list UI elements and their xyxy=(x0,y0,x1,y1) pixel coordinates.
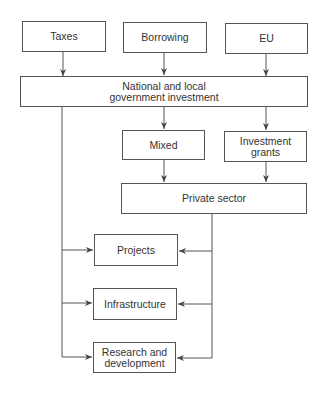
research-development-box: Research and development xyxy=(93,342,176,373)
projects-label: Projects xyxy=(117,245,155,256)
private-sector-label: Private sector xyxy=(182,193,246,204)
mixed-box: Mixed xyxy=(122,130,205,160)
rnd-label-line2: development xyxy=(104,358,164,369)
investment-grants-line1: Investment xyxy=(240,136,291,147)
private-sector-box: Private sector xyxy=(121,183,307,214)
eu-box: EU xyxy=(225,23,308,54)
mixed-label: Mixed xyxy=(149,140,177,151)
government-label-line1: National and local xyxy=(122,81,205,92)
investment-grants-box: Investment grants xyxy=(224,131,307,162)
taxes-box: Taxes xyxy=(22,21,106,52)
government-label-line2: government investment xyxy=(109,92,218,103)
projects-box: Projects xyxy=(94,234,178,266)
infrastructure-box: Infrastructure xyxy=(93,288,177,320)
taxes-label: Taxes xyxy=(50,31,77,42)
borrowing-box: Borrowing xyxy=(123,22,207,53)
eu-label: EU xyxy=(259,33,274,44)
infrastructure-label: Infrastructure xyxy=(104,299,166,310)
rnd-label-line1: Research and xyxy=(102,347,167,358)
investment-grants-line2: grants xyxy=(251,147,280,158)
government-investment-box: National and local government investment xyxy=(20,76,308,107)
borrowing-label: Borrowing xyxy=(141,32,188,43)
